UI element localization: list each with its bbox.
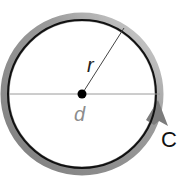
circle-diagram: r d C <box>0 0 178 188</box>
diameter-label: d <box>74 103 86 125</box>
radius-label: r <box>87 54 95 76</box>
circumference-label: C <box>161 127 177 152</box>
center-point <box>78 90 87 99</box>
